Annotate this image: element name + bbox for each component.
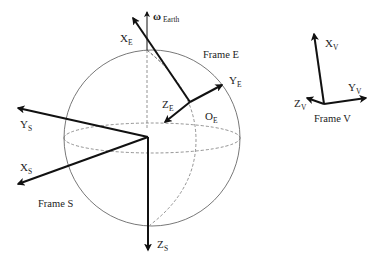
omega-sub: Earth bbox=[163, 15, 179, 24]
svg-text:V: V bbox=[333, 43, 339, 52]
svg-text:V: V bbox=[356, 87, 362, 96]
y-e-label: Y bbox=[229, 74, 237, 86]
z-s-label: Z bbox=[157, 238, 164, 250]
earth-rotation-vector: ω Earth bbox=[147, 10, 179, 50]
svg-text:E: E bbox=[237, 80, 242, 89]
svg-text:S: S bbox=[164, 244, 168, 253]
x-s-label: X bbox=[20, 161, 28, 173]
omega-label: ω bbox=[153, 10, 161, 22]
svg-text:S: S bbox=[28, 124, 32, 133]
frame-s-title: Frame S bbox=[38, 198, 73, 209]
svg-text:V: V bbox=[301, 103, 307, 112]
x-v-label: X bbox=[325, 37, 333, 49]
o-e-label: O bbox=[205, 110, 213, 122]
svg-text:E: E bbox=[169, 104, 174, 113]
z-v-label: Z bbox=[294, 97, 301, 109]
svg-text:E: E bbox=[128, 38, 133, 47]
frame-v-title: Frame V bbox=[314, 113, 351, 124]
svg-text:S: S bbox=[28, 167, 32, 176]
frame-e: X E Y E Z E O E Frame E bbox=[120, 18, 242, 125]
y-v-label: Y bbox=[348, 81, 356, 93]
frame-v: X V Y V Z V Frame V bbox=[294, 34, 366, 124]
svg-text:E: E bbox=[213, 116, 218, 125]
z-e-label: Z bbox=[162, 98, 169, 110]
frame-e-title: Frame E bbox=[203, 49, 239, 60]
reference-frames-diagram: ω Earth X E Y E Z E O E Frame E Y S X S … bbox=[0, 0, 381, 261]
frame-s: Y S X S Z S Frame S bbox=[18, 108, 168, 253]
y-s-label: Y bbox=[20, 118, 28, 130]
earth-sphere bbox=[64, 50, 240, 226]
x-e-label: X bbox=[120, 32, 128, 44]
